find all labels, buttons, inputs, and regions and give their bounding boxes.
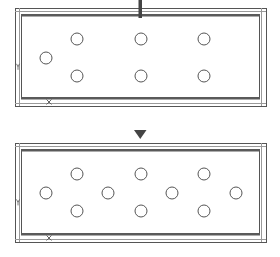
hole-circle [71,70,83,82]
bottom-thick-bar [21,97,260,100]
hole-circle [198,168,210,180]
hole-circle [198,70,210,82]
hole-circle [198,33,210,45]
arrow-head [134,130,147,139]
bottom-panel [15,143,267,243]
outer-frame [16,144,267,243]
hole-circle [71,168,83,180]
diagram-canvas [0,0,280,257]
top-thick-bar [21,149,260,152]
hole-circle [166,187,178,199]
hole-circle [135,205,147,217]
hole-circle [71,33,83,45]
arrow-shaft [139,0,143,18]
hole-circle [135,70,147,82]
hole-circle [135,33,147,45]
outer-frame [16,9,267,107]
hole-circle [198,205,210,217]
hole-circle [40,52,52,64]
down-arrow-icon [134,0,147,139]
bottom-thick-bar [21,233,260,236]
hole-circle [40,187,52,199]
hole-circle [135,168,147,180]
hole-circle [230,187,242,199]
top-panel [15,8,267,107]
hole-circle [102,187,114,199]
inner-frame [22,15,260,98]
hole-circle [71,205,83,217]
inner-frame [22,150,260,234]
